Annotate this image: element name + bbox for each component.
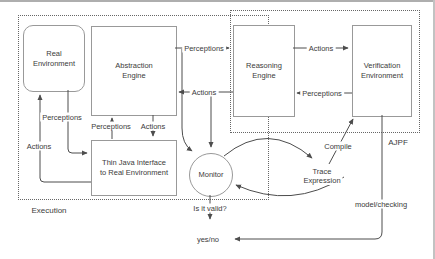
edge-label-actions: Actions <box>25 142 54 151</box>
node-reasoning-engine: Reasoning Engine <box>233 25 295 117</box>
node-label-line: Expression <box>303 176 340 185</box>
node-monitor: Monitor <box>189 153 233 197</box>
node-label-line: Engine <box>122 71 145 81</box>
ajpf-region-label: AJPF <box>388 138 408 147</box>
node-label-line: Engine <box>252 71 275 81</box>
node-verification-environment: Verification Environment <box>352 25 412 117</box>
node-label-line: Environment <box>361 71 403 81</box>
node-label-line: Abstraction <box>115 61 153 71</box>
execution-region-label: Execution <box>31 206 66 215</box>
edge-label-is-it-valid: Is it valid? <box>191 204 228 213</box>
edge-label-actions: Actions <box>139 122 168 131</box>
node-label-line: Reasoning <box>246 61 282 71</box>
edge-label-perceptions: Perceptions <box>89 122 133 131</box>
edge-label-perceptions: Perceptions <box>182 44 226 53</box>
node-label-line: Real <box>46 49 61 59</box>
edge-label-model-checking: model/checking <box>353 200 409 209</box>
node-label-line: to Real Environment <box>100 168 168 178</box>
node-label-line: Environment <box>33 59 75 69</box>
node-label-line: Thin Java Interface <box>102 158 166 168</box>
node-trace-expression: Trace Expression <box>301 167 342 185</box>
node-label-line: Verification <box>364 61 401 71</box>
scan-edge-top <box>0 0 435 2</box>
node-label-line: Monitor <box>198 170 223 180</box>
edge-label-actions: Actions <box>190 88 219 97</box>
edge-label-perceptions: Perceptions <box>40 113 84 122</box>
diagram-canvas: Real Environment Abstraction Engine Thin… <box>0 0 435 259</box>
node-real-environment: Real Environment <box>23 25 85 92</box>
edge-label-actions: Actions <box>307 44 336 53</box>
edge-label-compile: Compile <box>322 142 354 151</box>
node-label-line: Trace <box>303 167 340 176</box>
edge-label-perceptions: Perceptions <box>300 89 344 98</box>
result-label-yes-no: yes/no <box>195 235 221 244</box>
node-abstraction-engine: Abstraction Engine <box>91 26 177 116</box>
node-thin-java-interface: Thin Java Interface to Real Environment <box>91 140 177 196</box>
